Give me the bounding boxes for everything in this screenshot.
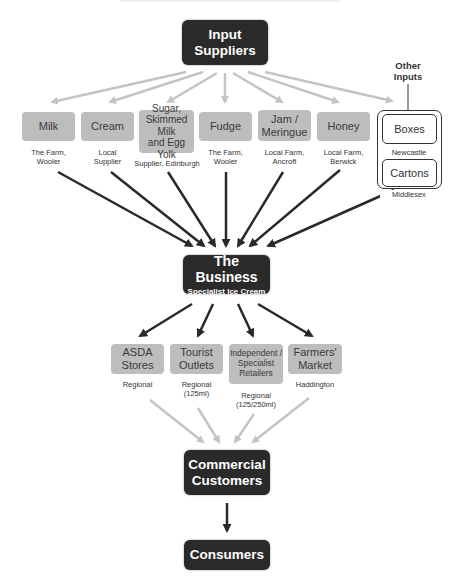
channel-tourist: Tourist Outlets: [170, 344, 223, 374]
supplier-sugar-line: Skimmed Milk: [139, 114, 194, 137]
supplier-milk: Milk: [22, 112, 75, 141]
channel-farmers: Farmers' Market: [288, 344, 342, 374]
supplier-cream: Cream: [81, 112, 134, 141]
channel-tourist-line: Outlets: [179, 359, 214, 372]
arrow-business-tourist: [198, 304, 213, 336]
location-line: Supplier: [77, 157, 138, 166]
supplier-sugar: Sugar, Skimmed Milk and Egg Yolk: [139, 110, 194, 153]
location-line: Newcastle: [392, 148, 427, 157]
location-line: The Farm,: [195, 148, 256, 157]
supplier-jam-line: Meringue: [262, 126, 308, 139]
supplier-sugar-line: and Egg Yolk: [139, 137, 194, 160]
commercial-customers-node: Commercial Customers: [184, 450, 270, 495]
supplier-cream-location: LocalSupplier: [77, 148, 138, 167]
location-line: Berwick: [313, 157, 374, 166]
location-line: Wooler: [18, 157, 79, 166]
channel-farmers-detail: Haddington: [284, 380, 346, 389]
supplier-fudge: Fudge: [199, 112, 252, 141]
arrow-to-jam: [233, 73, 282, 102]
channel-tourist-detail: Regional(125ml): [166, 380, 227, 399]
supplier-jam: Jam / Meringue: [258, 110, 311, 141]
channel-asda: ASDA Stores: [111, 344, 164, 374]
channel-independent-line: Retailers: [239, 369, 273, 379]
input-suppliers-line2: Suppliers: [194, 43, 256, 59]
input-suppliers-node: Input Suppliers: [182, 20, 268, 65]
arrow-to-honey: [248, 72, 338, 102]
detail-line: Regional: [224, 391, 288, 400]
arrow-to-sugar: [168, 73, 217, 102]
location-line: Local: [77, 148, 138, 157]
packaging-boxes-label: Boxes: [394, 123, 425, 135]
arrow-business-farmers: [258, 304, 312, 336]
supplier-sugar-line: Sugar,: [152, 103, 181, 115]
location-line: Local Farm,: [313, 148, 374, 157]
location-line: Supplier, Edinburgh: [132, 159, 202, 168]
channel-independent: Independent / Specialist Retailers: [229, 344, 283, 384]
packaging-cartons: Cartons: [382, 159, 437, 187]
detail-line: (125/250ml): [224, 400, 288, 409]
supplier-fudge-location: The Farm,Wooler: [195, 148, 256, 167]
consumers-node: Consumers: [184, 540, 270, 570]
detail-line: Regional: [166, 380, 227, 389]
arrow-tourist-commercial: [198, 408, 219, 442]
detail-line: Haddington: [284, 380, 346, 389]
channel-farmers-line: Market: [298, 359, 332, 372]
packaging-cartons-location: Middlesex: [380, 190, 438, 199]
channel-asda-detail: Regional: [107, 380, 168, 389]
supplier-milk-label: Milk: [39, 120, 59, 133]
other-inputs-label: Other Inputs: [386, 60, 430, 83]
location-line: Middlesex: [392, 190, 426, 199]
business-node: The Business Specialist Ice Cream: [183, 255, 270, 294]
location-line: The Farm,: [18, 148, 79, 157]
supplier-milk-location: The Farm,Wooler: [18, 148, 79, 167]
consumers-label: Consumers: [190, 547, 264, 563]
input-suppliers-line1: Input: [209, 27, 242, 43]
channel-independent-detail: Regional(125/250ml): [224, 391, 288, 410]
location-line: Local Farm,: [254, 148, 315, 157]
arrow-to-other: [265, 72, 392, 101]
arrow-business-asda: [140, 304, 192, 336]
arrow-asda-commercial: [150, 400, 203, 442]
arrow-business-independent: [238, 304, 253, 336]
arrow-to-milk: [52, 72, 186, 102]
detail-line: (125ml): [166, 389, 227, 398]
packaging-boxes: Boxes: [382, 114, 437, 144]
supplier-honey: Honey: [317, 112, 370, 141]
supplier-honey-location: Local Farm,Berwick: [313, 148, 374, 167]
location-line: Wooler: [195, 157, 256, 166]
location-line: Ancroft: [254, 157, 315, 166]
supplier-jam-line: Jam /: [271, 113, 298, 126]
commercial-line2: Customers: [192, 473, 263, 489]
supplier-honey-label: Honey: [328, 120, 360, 133]
supplier-fudge-label: Fudge: [210, 120, 241, 133]
commercial-line1: Commercial: [188, 457, 265, 473]
other-inputs-line1: Other: [386, 60, 430, 71]
supplier-cream-label: Cream: [91, 120, 124, 133]
channel-tourist-line: Tourist: [180, 346, 212, 359]
packaging-cartons-label: Cartons: [390, 167, 429, 179]
supplier-sugar-location: Supplier, Edinburgh: [132, 159, 202, 168]
arrow-packaging-business: [268, 190, 394, 246]
business-subtitle: Specialist Ice Cream: [188, 287, 266, 296]
channel-asda-line: ASDA: [123, 346, 153, 359]
arrow-jam-business: [238, 172, 283, 246]
packaging-boxes-location: Newcastle: [380, 148, 438, 157]
detail-line: Regional: [107, 380, 168, 389]
other-inputs-line2: Inputs: [386, 71, 430, 82]
arrow-independent-commercial: [235, 414, 254, 442]
channel-asda-line: Stores: [122, 359, 154, 372]
business-title: The Business: [183, 253, 270, 285]
channel-farmers-line: Farmers': [293, 346, 336, 359]
supplier-jam-location: Local Farm,Ancroft: [254, 148, 315, 167]
